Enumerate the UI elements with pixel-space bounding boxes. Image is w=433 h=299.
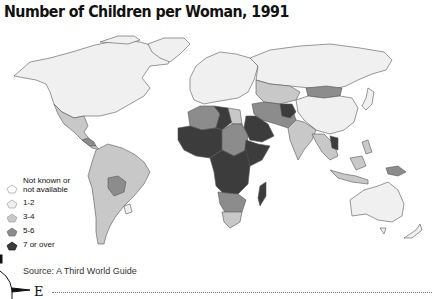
region-southern-africa[interactable] bbox=[218, 192, 246, 214]
region-central-africa[interactable] bbox=[210, 150, 250, 194]
legend-item-na: Not known or not available bbox=[6, 176, 70, 198]
legend-label: not available bbox=[23, 185, 70, 194]
world-map bbox=[0, 0, 433, 299]
compass-rose bbox=[0, 255, 30, 299]
compass-east-label: E bbox=[34, 284, 44, 299]
region-russia[interactable] bbox=[250, 44, 392, 90]
region-philippines[interactable] bbox=[362, 140, 372, 154]
region-japan[interactable] bbox=[362, 88, 374, 110]
region-south-africa[interactable] bbox=[222, 212, 242, 228]
region-europe[interactable] bbox=[190, 52, 258, 104]
region-madagascar[interactable] bbox=[258, 182, 266, 206]
region-west-africa[interactable] bbox=[178, 126, 222, 158]
region-north-africa[interactable] bbox=[188, 106, 220, 130]
region-uruguay[interactable] bbox=[124, 204, 132, 214]
legend-item-5-6: 5-6 bbox=[6, 226, 70, 240]
pentagon-mid-dark-icon bbox=[6, 227, 18, 237]
legend: Not known or not available 1-2 3-4 5-6 7… bbox=[6, 176, 70, 254]
region-indonesia[interactable] bbox=[330, 170, 368, 184]
region-borneo[interactable] bbox=[350, 156, 366, 170]
pentagon-dark-icon bbox=[6, 241, 18, 251]
source-caption: Source: A Third World Guide bbox=[23, 266, 137, 276]
legend-label: 7 or over bbox=[23, 240, 55, 249]
pentagon-mid-light-icon bbox=[6, 213, 18, 223]
legend-label: 3-4 bbox=[23, 212, 35, 221]
legend-label: 5-6 bbox=[23, 226, 35, 235]
legend-item-1-2: 1-2 bbox=[6, 198, 70, 212]
region-papua-new-guinea[interactable] bbox=[386, 166, 406, 176]
legend-label: Not known or bbox=[23, 176, 70, 185]
legend-item-7-plus: 7 or over bbox=[6, 240, 70, 254]
region-tasmania bbox=[380, 228, 386, 234]
dotted-divider bbox=[52, 292, 432, 293]
region-new-zealand[interactable] bbox=[404, 224, 422, 238]
legend-label: 1-2 bbox=[23, 198, 35, 207]
pentagon-light-icon bbox=[6, 199, 18, 209]
region-north-america[interactable] bbox=[14, 40, 172, 118]
pentagon-outline-icon bbox=[6, 184, 18, 194]
legend-item-3-4: 3-4 bbox=[6, 212, 70, 226]
region-australia[interactable] bbox=[350, 182, 404, 222]
